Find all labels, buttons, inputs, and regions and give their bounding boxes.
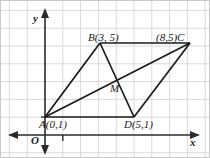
x-axis-label: x — [190, 136, 196, 148]
y-axis-label: y — [33, 12, 38, 24]
point-label-C: (8,5)C — [156, 31, 184, 43]
point-label-A: A(0,1) — [39, 118, 67, 130]
point-label-M: M — [110, 82, 119, 94]
origin-label: O — [31, 134, 39, 146]
coordinate-geometry-figure: B(3, 5) (8,5)C A(0,1) D(5,1) M y x O — [0, 0, 210, 158]
point-label-D: D(5,1) — [124, 118, 153, 130]
point-label-B: B(3, 5) — [88, 31, 119, 43]
